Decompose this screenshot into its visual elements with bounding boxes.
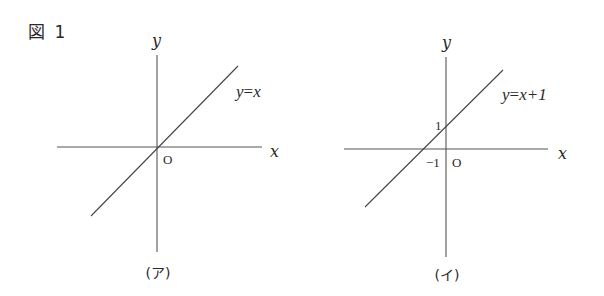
- equation-label: y=x+1: [500, 85, 547, 104]
- y-axis-label: y: [441, 33, 452, 52]
- y-tick-label-1: 1: [435, 118, 442, 133]
- line-y-equals-x-plus-1: [365, 70, 503, 207]
- equation-lhs: y: [500, 85, 510, 104]
- equation-equals: =: [510, 85, 520, 104]
- y-axis-label: y: [151, 31, 162, 50]
- caption-a: (ア): [146, 265, 171, 281]
- x-tick-label-minus-1: −1: [426, 155, 440, 170]
- caption-i: (イ): [435, 267, 460, 283]
- equation-equals: =: [244, 82, 254, 101]
- line-y-equals-x: [91, 66, 238, 216]
- origin-label: O: [452, 155, 461, 170]
- equation-label: y=x: [234, 82, 261, 101]
- equation-lhs: y: [234, 82, 244, 101]
- origin-label: O: [163, 152, 172, 167]
- x-axis-label: x: [558, 144, 567, 163]
- graph-i: y x O 1 −1 y=x+1 (イ): [344, 33, 567, 283]
- graph-a: y x O y=x (ア): [57, 31, 279, 281]
- equation-rhs: x+1: [518, 85, 547, 104]
- x-axis-label: x: [270, 142, 279, 161]
- figure-canvas: y x O y=x (ア) y x O 1 −1 y=x+1 (イ): [0, 0, 604, 296]
- equation-rhs: x: [252, 82, 261, 101]
